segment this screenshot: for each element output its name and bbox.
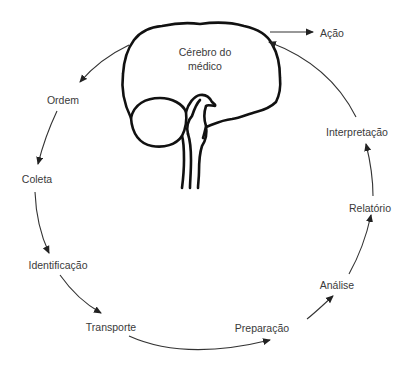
arrow-relatorio-to-interpretacao xyxy=(366,144,373,196)
step-interpretacao: Interpretação xyxy=(326,127,388,138)
arrow-transporte-to-preparacao xyxy=(129,336,270,350)
step-preparacao: Preparação xyxy=(235,323,289,334)
arrow-identificacao-to-transporte xyxy=(60,275,101,313)
brain-label: Cérebro do médico xyxy=(179,45,232,73)
arrow-preparacao-to-analise xyxy=(307,296,333,319)
arrow-analise-to-relatorio xyxy=(349,215,371,274)
step-analise: Análise xyxy=(320,280,354,291)
step-identificacao: Identificação xyxy=(29,260,88,271)
cycle-arrows xyxy=(35,32,373,350)
arrow-coleta-to-identificacao xyxy=(35,192,49,253)
brain-label-line1: Cérebro do xyxy=(179,45,232,59)
step-transporte: Transporte xyxy=(86,322,136,333)
brain-label-line2: médico xyxy=(179,59,232,73)
arrow-interpretacao-to-brain xyxy=(269,42,356,117)
action-label: Ação xyxy=(320,28,344,39)
step-ordem: Ordem xyxy=(47,95,79,106)
step-coleta: Coleta xyxy=(22,174,52,185)
arrow-ordem-to-coleta xyxy=(38,111,57,164)
step-relatorio: Relatório xyxy=(349,203,391,214)
